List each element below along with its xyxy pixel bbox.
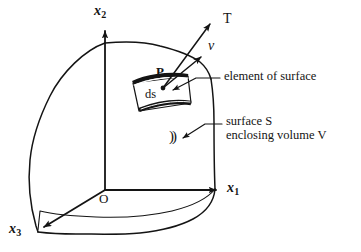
point-p-label: P [156,65,164,79]
axis-label-x3: x3 [9,221,21,239]
annotation-surface-s-line1: surface S [226,115,272,129]
axis-label-x1-sub: 1 [234,186,239,197]
traction-vector-label: T [223,11,232,26]
surface-element-label: ds [145,88,156,102]
volume-surface-diagram: x2 x1 x3 O P T ν ds element of surface s… [0,0,361,252]
origin-label: O [99,192,108,206]
surface-s-leader [183,124,222,138]
volume-outline [29,43,105,232]
annotation-surface-s-line2: enclosing volume V [226,129,326,143]
surface-bracket-mark: )) [169,128,175,144]
axis-label-x3-sub: 3 [16,227,21,238]
volume-outline-bottom-right [38,189,215,234]
axis-label-x1-base: x [227,180,234,195]
axis-label-x2-base: x [94,3,101,18]
axis-label-x2-sub: 2 [101,9,106,20]
axis-label-x3-base: x [9,221,16,236]
axis-label-x2: x2 [94,3,106,21]
axis-label-x1: x1 [227,180,239,198]
diagram-canvas [0,0,361,252]
volume-outline-right [211,79,215,189]
x3-axis-line [44,190,105,227]
annotation-element-of-surface: element of surface [224,70,316,84]
normal-vector-label: ν [208,38,214,53]
volume-back-contour [38,189,215,230]
